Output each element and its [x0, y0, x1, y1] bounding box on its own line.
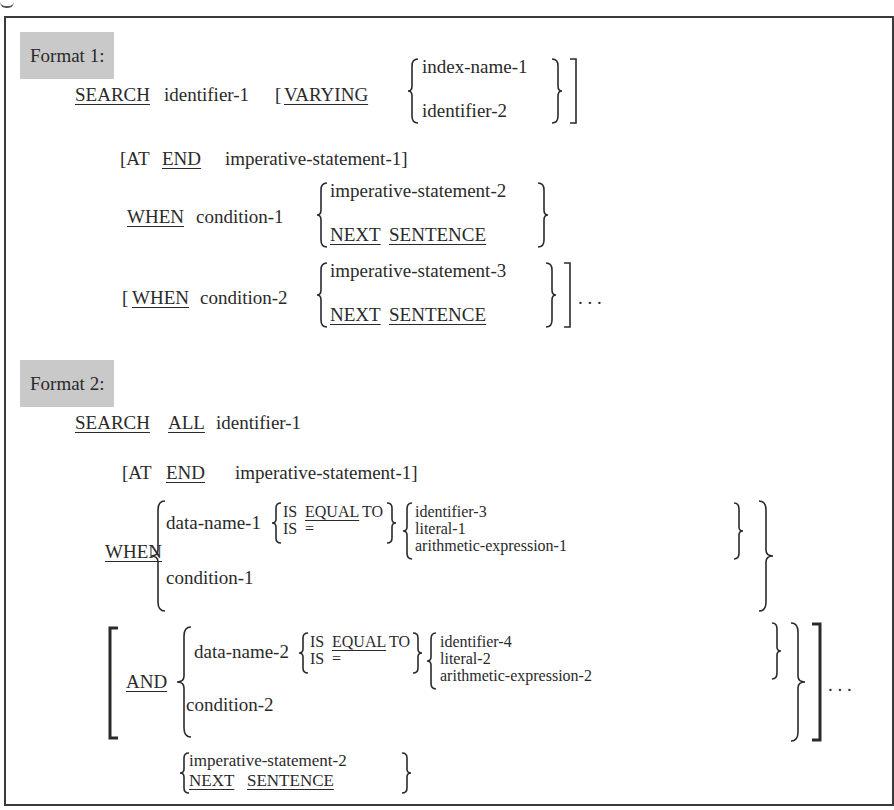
kw-sentence: SENTENCE: [389, 304, 486, 326]
option-identifier-3: identifier-3: [415, 504, 487, 520]
kw-next: NEXT: [330, 224, 381, 246]
kw-when: WHEN: [132, 287, 189, 309]
left-brace-icon: [317, 262, 329, 328]
identifier-1: identifier-1: [216, 412, 301, 434]
right-bracket-icon: [564, 262, 572, 328]
option-identifier-2: identifier-2: [422, 100, 507, 122]
left-brace-icon: [427, 632, 437, 690]
is-keyword: IS: [310, 634, 324, 650]
right-brace-icon: [734, 502, 744, 560]
at-end-statement: imperative-statement-1]: [225, 148, 408, 170]
kw-next: NEXT: [189, 772, 234, 790]
left-brace-icon: [317, 182, 329, 248]
option-imperative-statement-3: imperative-statement-3: [330, 260, 506, 282]
format-1-label: Format 1:: [20, 32, 114, 79]
option-identifier-4: identifier-4: [440, 634, 512, 650]
to-keyword: TO: [389, 634, 410, 650]
option-index-name-1: index-name-1: [422, 56, 528, 78]
is-keyword: IS: [310, 651, 324, 667]
to-keyword: TO: [362, 504, 383, 520]
equals-sign: =: [332, 651, 341, 667]
data-name-2: data-name-2: [194, 641, 289, 663]
right-brace-icon: [552, 58, 564, 124]
equals-sign: =: [305, 521, 314, 537]
is-keyword: IS: [283, 521, 297, 537]
left-bracket-icon: [108, 626, 120, 740]
right-brace-icon: [790, 622, 806, 742]
left-brace-icon: [176, 626, 192, 738]
option-arithmetic-expression-1: arithmetic-expression-1: [415, 538, 567, 554]
kw-all: ALL: [168, 412, 205, 434]
condition-1: condition-1: [166, 567, 254, 589]
at-keyword: [AT: [122, 462, 152, 484]
condition-2: condition-2: [186, 694, 274, 716]
option-imperative-statement-2: imperative-statement-2: [330, 180, 506, 202]
right-brace-icon: [387, 502, 397, 544]
condition-1: condition-1: [196, 206, 284, 228]
at-end-statement: imperative-statement-1]: [235, 462, 418, 484]
option-literal-2: literal-2: [440, 651, 491, 667]
left-brace-icon: [272, 502, 282, 544]
right-bracket-icon: [810, 622, 822, 742]
kw-end: END: [166, 462, 205, 484]
kw-sentence: SENTENCE: [247, 772, 334, 790]
page-edge-mark: [0, 0, 14, 8]
ellipsis: . . .: [828, 674, 852, 696]
right-bracket-icon: [570, 58, 578, 124]
option-imperative-statement-2: imperative-statement-2: [189, 752, 347, 770]
at-keyword: [AT: [120, 148, 150, 170]
right-brace-icon: [546, 262, 558, 328]
kw-equal: EQUAL: [305, 504, 359, 520]
left-brace-icon: [408, 58, 420, 124]
bracket-open: [: [122, 287, 128, 309]
kw-and: AND: [126, 671, 167, 693]
format-2-label: Format 2:: [20, 360, 114, 407]
kw-when: WHEN: [127, 206, 184, 228]
kw-next: NEXT: [330, 304, 381, 326]
kw-search: SEARCH: [75, 84, 150, 106]
kw-varying: VARYING: [284, 84, 368, 106]
left-brace-icon: [150, 500, 166, 612]
option-arithmetic-expression-2: arithmetic-expression-2: [440, 668, 592, 684]
kw-equal: EQUAL: [332, 634, 386, 650]
ellipsis: . . .: [578, 287, 602, 309]
left-brace-icon: [299, 632, 309, 674]
option-literal-1: literal-1: [415, 521, 466, 537]
right-brace-icon: [772, 622, 782, 680]
right-brace-icon: [538, 182, 550, 248]
right-brace-icon: [758, 500, 774, 612]
left-brace-icon: [403, 502, 413, 560]
is-keyword: IS: [283, 504, 297, 520]
right-brace-icon: [402, 752, 412, 794]
condition-2: condition-2: [200, 287, 288, 309]
kw-sentence: SENTENCE: [389, 224, 486, 246]
kw-search: SEARCH: [75, 412, 150, 434]
bracket-open: [: [275, 84, 281, 106]
data-name-1: data-name-1: [166, 512, 261, 534]
identifier-1: identifier-1: [164, 84, 249, 106]
right-brace-icon: [413, 632, 423, 674]
kw-end: END: [162, 148, 201, 170]
